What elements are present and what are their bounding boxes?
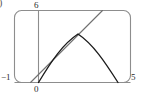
- x-max-label: 5: [131, 73, 136, 82]
- graph-svg: [0, 0, 142, 98]
- viewing-window-frame: [15, 11, 131, 83]
- y-max-label: 6: [34, 1, 39, 10]
- x-origin-label: 0: [34, 85, 39, 94]
- x-min-label: −1: [1, 73, 11, 82]
- figure-part-tag: ): [0, 0, 2, 7]
- graph-figure: ) 6 −1 0 5: [0, 0, 142, 98]
